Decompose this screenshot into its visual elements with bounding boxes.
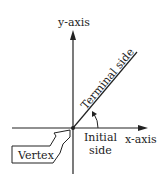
vertex-label: Vertex xyxy=(17,149,55,162)
y-axis-label: y-axis xyxy=(57,16,90,29)
angle-arc xyxy=(94,114,98,128)
x-axis-label: x-axis xyxy=(125,133,157,146)
initial-side-label-line1: Initial xyxy=(84,131,117,144)
y-axis-arrow-icon xyxy=(70,30,76,40)
x-axis-arrow-icon xyxy=(138,125,148,131)
initial-side-label-line2: side xyxy=(89,144,112,157)
vertex-point xyxy=(71,126,75,130)
angle-diagram: Vertex y-axis x-axis Initial side Termin… xyxy=(0,0,168,185)
terminal-side-label: Terminal side xyxy=(78,46,137,112)
angle-arrow-icon xyxy=(92,111,97,117)
